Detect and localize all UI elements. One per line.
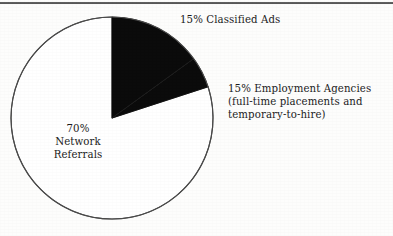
slice-label-employment-line-2: (full-time placements and [228,95,371,108]
pie-chart-figure: 15% Classified Ads 15% Employment Agenci… [0,0,393,236]
slice-label-network-line-1: 70% [42,122,114,135]
slice-label-network-line-3: Referrals [42,148,114,161]
slice-label-employment-line-3: temporary-to-hire) [228,108,371,121]
slice-label-network-referrals: 70% Network Referrals [42,122,114,161]
slice-label-employment-line-1: 15% Employment Agencies [228,82,371,95]
slice-label-employment-agencies: 15% Employment Agencies (full-time place… [228,82,371,121]
slice-label-classified-ads: 15% Classified Ads [180,13,280,26]
slice-label-network-line-2: Network [42,135,114,148]
